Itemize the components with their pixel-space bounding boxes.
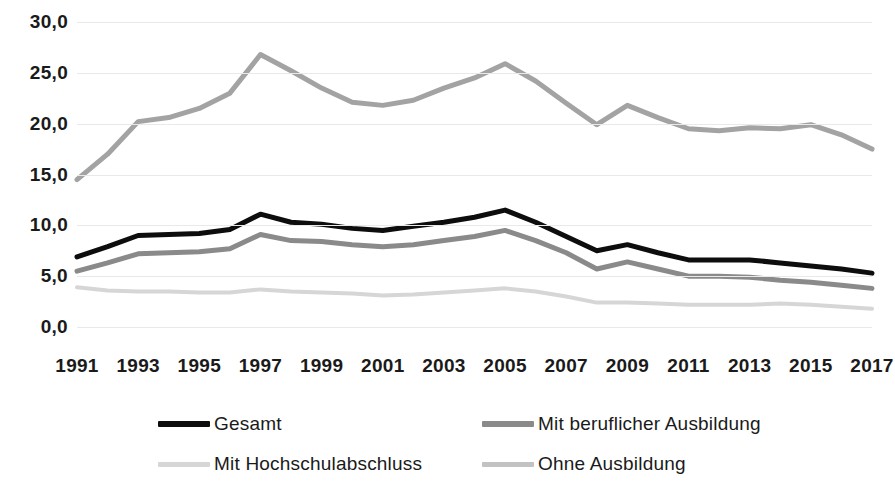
- legend-item-ohne-ausbildung[interactable]: Ohne Ausbildung: [482, 444, 686, 484]
- plot-area: [77, 0, 872, 350]
- gridline: [77, 225, 872, 226]
- legend-label-gesamt: Gesamt: [214, 413, 282, 435]
- x-axis-tick-label: 2017: [850, 355, 893, 377]
- y-axis-tick-label: 20,0: [0, 113, 68, 135]
- line-chart: 0,05,010,015,020,025,030,0 1991199319951…: [0, 0, 895, 489]
- chart-legend: Gesamt Mit beruflicher Ausbildung Mit Ho…: [0, 404, 895, 489]
- y-axis-tick-label: 25,0: [0, 62, 68, 84]
- gridline: [77, 73, 872, 74]
- gridline: [77, 276, 872, 277]
- legend-row: Mit Hochschulabschluss Ohne Ausbildung: [0, 444, 895, 484]
- legend-item-mit-hochschulabschluss[interactable]: Mit Hochschulabschluss: [158, 444, 422, 484]
- legend-label-mit-hochschulabschluss: Mit Hochschulabschluss: [214, 453, 422, 475]
- x-axis-tick-label: 1993: [116, 355, 159, 377]
- x-axis-tick-label: 2001: [361, 355, 404, 377]
- legend-swatch-mit-beruflicher-ausbildung: [482, 421, 534, 427]
- gridline: [77, 327, 872, 328]
- x-axis-tick-label: 2015: [789, 355, 832, 377]
- x-axis-tick-label: 1991: [55, 355, 98, 377]
- x-axis-tick-label: 1997: [239, 355, 282, 377]
- x-axis-tick-label: 2005: [483, 355, 526, 377]
- legend-label-ohne-ausbildung: Ohne Ausbildung: [538, 453, 686, 475]
- y-axis-tick-label: 15,0: [0, 164, 68, 186]
- series-line: [77, 210, 872, 273]
- x-axis-tick-label: 2011: [667, 355, 709, 377]
- legend-label-mit-beruflicher-ausbildung: Mit beruflicher Ausbildung: [538, 413, 761, 435]
- y-axis: 0,05,010,015,020,025,030,0: [0, 0, 68, 350]
- x-axis: 1991199319951997199920012003200520072009…: [77, 355, 872, 395]
- x-axis-tick-label: 2007: [544, 355, 587, 377]
- y-axis-tick-label: 0,0: [0, 316, 68, 338]
- y-axis-tick-label: 30,0: [0, 11, 68, 33]
- series-line: [77, 287, 872, 308]
- x-axis-tick-label: 2013: [728, 355, 771, 377]
- y-axis-tick-label: 10,0: [0, 214, 68, 236]
- gridline: [77, 175, 872, 176]
- y-axis-tick-label: 5,0: [0, 265, 68, 287]
- legend-swatch-ohne-ausbildung: [482, 462, 534, 467]
- x-axis-tick-label: 2009: [606, 355, 649, 377]
- gridline: [77, 124, 872, 125]
- x-axis-tick-label: 2003: [422, 355, 465, 377]
- x-axis-tick-label: 1999: [300, 355, 343, 377]
- legend-item-mit-beruflicher-ausbildung[interactable]: Mit beruflicher Ausbildung: [482, 404, 761, 444]
- x-axis-tick-label: 1995: [178, 355, 221, 377]
- legend-swatch-mit-hochschulabschluss: [158, 462, 210, 467]
- legend-item-gesamt[interactable]: Gesamt: [158, 404, 282, 444]
- gridline: [77, 22, 872, 23]
- legend-row: Gesamt Mit beruflicher Ausbildung: [0, 404, 895, 444]
- legend-swatch-gesamt: [158, 421, 210, 427]
